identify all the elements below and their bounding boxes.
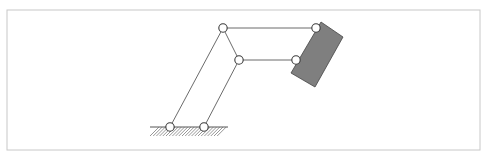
joint-middle — [235, 56, 243, 64]
joint-lower-right — [292, 56, 300, 64]
joint-ground-right — [200, 123, 208, 131]
joint-top-right — [312, 24, 320, 32]
joint-ground-left — [166, 123, 174, 131]
diagram-frame — [7, 10, 480, 150]
joint-top-left — [219, 24, 227, 32]
linkage-diagram — [0, 0, 485, 158]
